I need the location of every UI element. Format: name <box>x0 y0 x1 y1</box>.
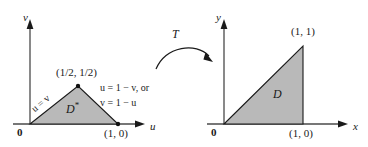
region-d-star-letter: D <box>66 102 75 116</box>
transform-arrow-head <box>203 52 213 62</box>
left-right-vertex-label: (1, 0) <box>104 128 128 139</box>
region-d-star-label: D* <box>66 101 79 115</box>
transformation-figure: v u 0 (1/2, 1/2) (1, 0) D* u = v u = 1 −… <box>0 0 368 147</box>
region-d-star-asterisk: * <box>75 100 80 110</box>
right-top-point-label: (1, 1) <box>291 26 315 37</box>
left-edge-label-line2: v = 1 − u <box>100 98 136 108</box>
right-y-axis-arrowhead <box>221 19 228 29</box>
transform-label: T <box>172 28 179 40</box>
left-right-vertex-dot <box>116 122 120 126</box>
left-u-axis-label: u <box>150 121 156 132</box>
right-y-axis-label: y <box>216 12 221 23</box>
right-origin-label: 0 <box>211 127 217 138</box>
region-d-label: D <box>273 88 282 100</box>
left-edge-label-line1: u = 1 − v, or <box>100 83 149 93</box>
left-apex-point-dot <box>76 84 80 88</box>
transform-arrow-curve <box>156 48 209 69</box>
region-d-shape <box>224 46 303 124</box>
left-apex-point-label: (1/2, 1/2) <box>56 67 97 78</box>
left-u-axis-arrowhead <box>135 121 145 128</box>
left-origin-label: 0 <box>17 127 23 138</box>
transform-arrow-group <box>156 48 213 69</box>
left-v-axis-label: v <box>23 12 28 23</box>
right-x-axis-arrowhead <box>338 121 348 128</box>
right-plot-group <box>207 19 348 127</box>
right-x-axis-label: x <box>353 121 358 132</box>
right-bottom-point-label: (1, 0) <box>289 128 313 139</box>
